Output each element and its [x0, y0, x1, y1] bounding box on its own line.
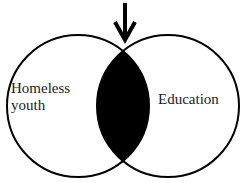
label-line-1: Homeless [11, 80, 70, 97]
down-arrow-icon [115, 3, 135, 40]
label-line-2: youth [11, 97, 70, 114]
education-label: Education [158, 91, 219, 108]
homeless-youth-label: Homeless youth [11, 80, 70, 114]
